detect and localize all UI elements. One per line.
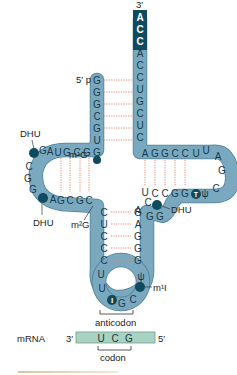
mrna-label: mRNA <box>17 333 46 344</box>
d-arm-hydrogen-bonds <box>61 158 89 192</box>
svg-text:G: G <box>181 188 189 199</box>
anticodon-label: anticodon <box>95 317 136 328</box>
svg-text:G: G <box>161 148 169 159</box>
svg-text:C: C <box>100 231 107 242</box>
acceptor-left-strand: G G G C G U G <box>93 75 101 158</box>
svg-text:C: C <box>93 111 100 122</box>
acceptor-terminal-bases: A C C A <box>136 12 143 59</box>
svg-text:G: G <box>146 211 154 222</box>
svg-text:G: G <box>57 195 65 206</box>
dhu-bottom-label: DHU <box>33 217 54 228</box>
svg-text:C: C <box>100 207 107 218</box>
m2g-label: m²G <box>71 219 89 230</box>
svg-text:U: U <box>93 135 100 146</box>
svg-text:C: C <box>136 60 143 71</box>
pseudouridine-t-loop: ψ <box>201 188 208 199</box>
svg-text:G: G <box>171 188 179 199</box>
svg-text:G: G <box>93 123 101 134</box>
svg-text:U: U <box>136 120 143 131</box>
svg-text:G: G <box>83 147 91 158</box>
svg-text:C: C <box>144 197 151 208</box>
svg-text:G: G <box>76 195 84 206</box>
trna-diagram: 3′ A C C A 5′ p G G G C G U G C C U G C … <box>0 0 237 375</box>
svg-text:G: G <box>218 165 226 176</box>
svg-text:C: C <box>85 195 92 206</box>
dhu-right-label: DHU <box>171 204 192 215</box>
dhu-right-modified-base <box>152 200 162 210</box>
mrna-five-prime: 5′ <box>158 333 165 344</box>
mrna-three-prime: 3′ <box>66 333 73 344</box>
codon-label: codon <box>100 352 126 363</box>
svg-text:C: C <box>25 161 32 172</box>
svg-text:G: G <box>134 255 142 266</box>
m1i-label: m¹I <box>153 282 167 293</box>
svg-text:G: G <box>29 184 37 195</box>
page-rule <box>18 371 118 373</box>
svg-text:G: G <box>156 211 164 222</box>
svg-text:A: A <box>142 148 149 159</box>
svg-text:C: C <box>100 255 107 266</box>
dhu-top-modified-base <box>29 148 39 158</box>
m1g-modified-base <box>93 156 101 164</box>
codon-base-2: C <box>111 333 118 344</box>
svg-text:C: C <box>212 183 219 194</box>
svg-text:C: C <box>171 148 178 159</box>
svg-text:G: G <box>151 148 159 159</box>
svg-text:C: C <box>136 36 143 47</box>
svg-text:U: U <box>98 283 105 294</box>
svg-text:G: G <box>63 147 71 158</box>
svg-text:U: U <box>192 148 199 159</box>
svg-text:C: C <box>100 243 107 254</box>
anticodon-left-strand: C U C C C <box>100 207 107 266</box>
svg-text:G: G <box>39 145 47 156</box>
d-arm-top-strand: G C G U A G <box>39 145 91 158</box>
svg-text:C: C <box>136 108 143 119</box>
svg-text:A: A <box>136 12 143 23</box>
svg-text:U: U <box>136 84 143 95</box>
svg-text:C: C <box>136 24 143 35</box>
svg-text:G: G <box>136 96 144 107</box>
svg-text:G: G <box>134 243 142 254</box>
svg-text:U: U <box>100 219 107 230</box>
svg-text:A: A <box>135 219 142 230</box>
t-arm-hydrogen-bonds <box>145 160 185 186</box>
codon-base-3: G <box>125 333 133 344</box>
svg-text:G: G <box>93 99 101 110</box>
svg-text:ψ: ψ <box>137 271 144 282</box>
svg-text:G: G <box>24 173 32 184</box>
m1i-modified-base <box>135 282 145 292</box>
dhu-top-label: DHU <box>20 128 41 139</box>
svg-text:U: U <box>97 269 104 280</box>
svg-text:C: C <box>73 147 80 158</box>
svg-text:C: C <box>181 148 188 159</box>
t-arm-loop: U U A G C <box>192 145 226 194</box>
svg-text:G: G <box>134 231 142 242</box>
svg-text:C: C <box>136 132 143 143</box>
anticodon-right-strand: G A G G G <box>134 207 142 266</box>
codon-bracket <box>98 346 131 350</box>
acceptor-right-strand: C C U G C U C <box>136 60 144 143</box>
svg-text:A: A <box>137 48 144 59</box>
dhu-bottom-modified-base <box>38 193 48 203</box>
anticodon-base-3: C <box>129 294 136 305</box>
svg-text:G: G <box>93 147 101 158</box>
five-prime-label: 5′ p <box>76 74 91 85</box>
svg-text:A: A <box>50 194 57 205</box>
svg-text:C: C <box>151 188 158 199</box>
anticodon-base-2: G <box>118 298 126 309</box>
svg-text:G: G <box>93 87 101 98</box>
svg-text:G: G <box>93 75 101 86</box>
svg-text:C: C <box>66 195 73 206</box>
svg-text:U: U <box>54 147 61 158</box>
ribothymidine-label: T <box>194 191 199 198</box>
acceptor-hydrogen-bonds <box>104 80 133 140</box>
three-prime-label: 3′ <box>136 0 143 10</box>
svg-text:A: A <box>215 151 222 162</box>
codon-base-1: U <box>97 333 104 344</box>
d-arm-bottom-strand: A G C G C <box>50 194 93 206</box>
svg-text:G: G <box>134 207 142 218</box>
svg-text:C: C <box>161 188 168 199</box>
svg-text:U: U <box>202 145 209 156</box>
anticodon-base-1: I <box>111 296 113 305</box>
svg-text:A: A <box>47 146 54 157</box>
